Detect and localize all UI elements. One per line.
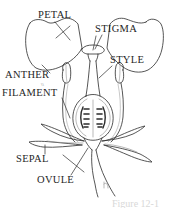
anther-right-detail [119,65,120,82]
flower-anatomy-drawing [0,0,174,208]
leader-line-style [99,66,112,78]
stem-left-edge [92,150,98,197]
stem-right-edge [96,150,115,196]
leader-line-ovule [71,148,88,175]
style-left-edge [86,61,90,96]
figure-caption: Figure 12-1 [112,198,159,208]
label-stigma: STIGMA [95,24,137,35]
petal-left-shape [26,18,82,70]
style-right-edge [96,61,100,96]
label-anther: ANTHER [5,70,49,81]
label-sepal: SEPAL [16,154,49,165]
ovule-right-spine [103,107,105,128]
receptacle-shape [84,138,102,150]
sepal-right-outer [104,145,152,162]
anther-left-detail [66,65,67,82]
ovule-cluster-left [84,109,89,127]
label-style: STYLE [110,55,144,66]
stigma-neck [88,54,98,61]
leader-line-ovule-cross [63,155,84,172]
ovule-left-spine [81,107,83,128]
ovule-cluster-right [97,109,102,127]
figure-canvas: PETAL STIGMA STYLE ANTHER \\ FILAMENT SE… [0,0,174,208]
sepal-right-inner [102,126,145,141]
leader-line-petal-cross [56,26,70,38]
label-ovule: OVULE [37,175,74,186]
label-petal: PETAL [38,10,71,21]
label-filament: FILAMENT [2,88,57,99]
